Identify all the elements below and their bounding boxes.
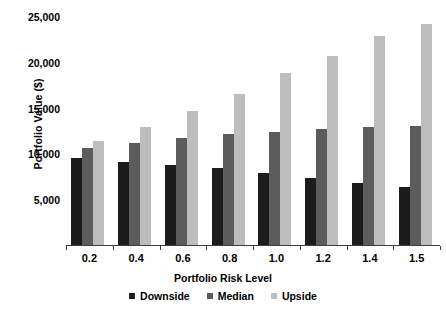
- y-axis-tick-label: 10,000: [28, 148, 60, 160]
- bar-upside: [421, 24, 432, 246]
- chart-legend: DownsideMedianUpside: [0, 290, 446, 302]
- bar-median: [363, 127, 374, 246]
- x-axis-tick-mark: [440, 246, 441, 250]
- bar-upside: [140, 127, 151, 246]
- bar-upside: [327, 56, 338, 246]
- bar-group: [165, 8, 198, 246]
- bar-downside: [305, 178, 316, 246]
- x-axis-title: Portfolio Risk Level: [0, 272, 446, 284]
- x-axis-tick-mark: [113, 246, 114, 250]
- bar-median: [176, 138, 187, 246]
- x-axis-tick-mark: [253, 246, 254, 250]
- bar-median: [269, 132, 280, 246]
- x-axis-tick-mark: [393, 246, 394, 250]
- x-axis-tick-mark: [206, 246, 207, 250]
- x-axis-tick-mark: [66, 246, 67, 250]
- x-axis-tick-label: 0.8: [222, 252, 237, 264]
- y-axis-tick-label: 5,000: [34, 194, 60, 206]
- bar-downside: [71, 158, 82, 246]
- y-axis-tick-label: 20,000: [28, 57, 60, 69]
- bar-group: [212, 8, 245, 246]
- bar-group: [352, 8, 385, 246]
- x-axis-tick-label: 1.4: [362, 252, 377, 264]
- bar-group: [258, 8, 291, 246]
- bar-chart: Portfolio Value ($) 5,00010,00015,00020,…: [0, 0, 446, 311]
- bar-group: [71, 8, 104, 246]
- x-axis-tick-mark: [160, 246, 161, 250]
- x-axis-tick-label: 1.0: [269, 252, 284, 264]
- bar-group: [118, 8, 151, 246]
- bar-median: [316, 129, 327, 246]
- bar-upside: [93, 141, 104, 246]
- legend-item-median[interactable]: Median: [207, 290, 254, 302]
- legend-swatch-icon: [129, 293, 135, 299]
- bar-median: [129, 143, 140, 246]
- bar-upside: [187, 111, 198, 246]
- bar-downside: [352, 183, 363, 246]
- bar-upside: [374, 36, 385, 246]
- bar-downside: [118, 162, 129, 246]
- bar-upside: [234, 94, 245, 246]
- bar-downside: [399, 187, 410, 247]
- bar-median: [223, 134, 234, 246]
- legend-label: Upside: [282, 290, 317, 302]
- x-axis-tick-label: 0.2: [82, 252, 97, 264]
- x-axis-tick-mark: [347, 246, 348, 250]
- plot-area: 5,00010,00015,00020,00025,000: [66, 8, 440, 246]
- x-axis-tick-label: 0.6: [175, 252, 190, 264]
- bar-downside: [258, 173, 269, 246]
- y-axis-tick-label: 25,000: [28, 11, 60, 23]
- bar-median: [410, 126, 421, 246]
- legend-label: Downside: [140, 290, 190, 302]
- x-axis-tick-label: 1.2: [315, 252, 330, 264]
- legend-swatch-icon: [271, 293, 277, 299]
- legend-label: Median: [218, 290, 254, 302]
- bar-downside: [165, 165, 176, 246]
- legend-item-downside[interactable]: Downside: [129, 290, 190, 302]
- x-axis-tick-mark: [300, 246, 301, 250]
- legend-swatch-icon: [207, 293, 213, 299]
- bar-group: [399, 8, 432, 246]
- bar-group: [305, 8, 338, 246]
- bar-upside: [280, 73, 291, 246]
- y-axis-tick-label: 15,000: [28, 103, 60, 115]
- bar-median: [82, 148, 93, 246]
- x-axis-tick-label: 0.4: [128, 252, 143, 264]
- bar-downside: [212, 168, 223, 246]
- legend-item-upside[interactable]: Upside: [271, 290, 317, 302]
- x-axis-tick-label: 1.5: [409, 252, 424, 264]
